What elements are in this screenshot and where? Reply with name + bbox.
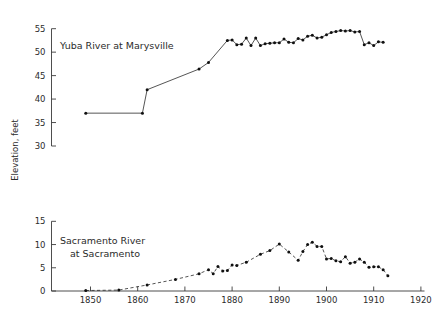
data-point [231, 263, 234, 266]
data-point [320, 36, 323, 39]
two-panel-line-chart: Elevation, feet 303540455055Yuba River a… [0, 0, 446, 313]
data-point [268, 42, 271, 45]
data-point [311, 34, 314, 37]
data-point [382, 41, 385, 44]
data-point [146, 283, 149, 286]
data-point [117, 289, 120, 292]
y-tick-label: 5 [40, 263, 45, 273]
y-tick-label: 45 [35, 71, 46, 81]
data-point [353, 30, 356, 33]
data-point [235, 264, 238, 267]
data-point [372, 265, 375, 268]
data-point [297, 37, 300, 40]
y-tick-label: 15 [35, 216, 46, 226]
data-point [259, 44, 262, 47]
data-point [367, 266, 370, 269]
data-point [249, 44, 252, 47]
data-point [349, 29, 352, 32]
data-point [240, 43, 243, 46]
series-label-line1: Sacramento River [60, 235, 145, 246]
x-tick-label: 1920 [410, 295, 432, 305]
series-label: Yuba River at Marysville [59, 40, 174, 51]
data-point [344, 255, 347, 258]
data-point [386, 274, 389, 277]
data-point [146, 88, 149, 91]
x-tick-label: 1880 [221, 295, 243, 305]
panel-sacramento-river: 05101518501860187018801890190019101920Sa… [35, 216, 432, 305]
data-point [349, 262, 352, 265]
data-point [226, 39, 229, 42]
data-point [306, 35, 309, 38]
data-point [367, 41, 370, 44]
data-point [301, 38, 304, 41]
y-tick-label: 10 [35, 240, 46, 250]
x-tick-label: 1860 [127, 295, 149, 305]
data-point [301, 250, 304, 253]
data-point [382, 268, 385, 271]
x-tick-label: 1910 [363, 295, 385, 305]
data-point [334, 259, 337, 262]
data-point [316, 245, 319, 248]
data-point [325, 33, 328, 36]
data-point [278, 41, 281, 44]
data-point [226, 269, 229, 272]
data-point [320, 245, 323, 248]
data-point [259, 253, 262, 256]
data-point [198, 272, 201, 275]
y-tick-label: 50 [35, 47, 46, 57]
data-point [358, 30, 361, 33]
data-point [264, 42, 267, 45]
data-point [207, 61, 210, 64]
y-tick-label: 0 [40, 286, 45, 296]
data-point [221, 270, 224, 273]
data-point [325, 257, 328, 260]
data-point [278, 243, 281, 246]
y-tick-label: 30 [35, 141, 46, 151]
series-label-line2: at Sacramento [70, 248, 140, 259]
data-point [84, 112, 87, 115]
data-point [353, 261, 356, 264]
data-point [212, 272, 215, 275]
panel-yuba-river: 303540455055Yuba River at Marysville [35, 24, 385, 151]
data-point [358, 257, 361, 260]
data-point [254, 37, 257, 40]
data-point [339, 29, 342, 32]
y-tick-label: 55 [35, 24, 46, 34]
data-point [363, 43, 366, 46]
data-point [344, 30, 347, 33]
data-point [377, 265, 380, 268]
data-point [283, 38, 286, 41]
data-point [339, 260, 342, 263]
data-point [330, 31, 333, 34]
data-point [216, 265, 219, 268]
data-point [334, 30, 337, 33]
figure-container: Elevation, feet 303540455055Yuba River a… [0, 0, 446, 313]
x-tick-label: 1890 [268, 295, 290, 305]
data-point [174, 278, 177, 281]
data-point [316, 37, 319, 40]
data-point [84, 289, 87, 292]
data-point [245, 37, 248, 40]
y-axis-title: Elevation, feet [10, 118, 20, 180]
x-tick-label: 1850 [80, 295, 102, 305]
data-point [231, 38, 234, 41]
x-tick-label: 1900 [316, 295, 338, 305]
data-point [245, 261, 248, 264]
data-point [330, 257, 333, 260]
y-tick-label: 40 [35, 94, 46, 104]
data-point [287, 41, 290, 44]
data-point [306, 243, 309, 246]
data-point [311, 241, 314, 244]
data-point [292, 41, 295, 44]
y-axis-title-group: Elevation, feet [10, 118, 20, 180]
data-point [372, 44, 375, 47]
data-point [297, 259, 300, 262]
data-point [287, 250, 290, 253]
data-point [235, 43, 238, 46]
data-point [141, 112, 144, 115]
data-point [363, 261, 366, 264]
y-tick-label: 35 [35, 118, 46, 128]
data-point [273, 41, 276, 44]
data-point [377, 40, 380, 43]
data-point [207, 268, 210, 271]
